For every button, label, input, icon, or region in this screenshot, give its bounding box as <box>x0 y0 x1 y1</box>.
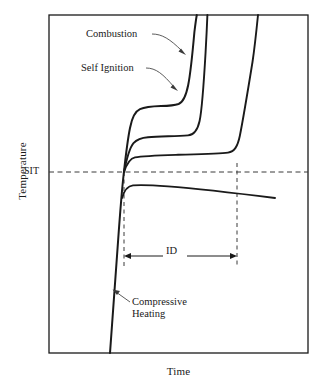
combustion-pointer <box>152 34 186 55</box>
self-ignition-label: Self Ignition <box>81 62 134 74</box>
compressive-heating-label-line2: Heating <box>132 308 187 320</box>
self-ignition-pointer <box>146 68 178 91</box>
curve-no-ignition <box>122 185 275 198</box>
id-interval-arrow <box>124 249 237 263</box>
chart-canvas <box>0 0 321 385</box>
compressive-heating-label: Compressive Heating <box>132 296 187 319</box>
compressive-heating-label-line1: Compressive <box>132 296 187 308</box>
chart-figure: Temperature Time SIT ID Combustion Self … <box>0 0 321 385</box>
combustion-label: Combustion <box>86 28 137 40</box>
sit-axis-label: SIT <box>24 165 39 177</box>
curve-ignition-third <box>124 15 258 172</box>
id-interval-label: ID <box>166 245 177 257</box>
x-axis-title: Time <box>49 365 308 377</box>
